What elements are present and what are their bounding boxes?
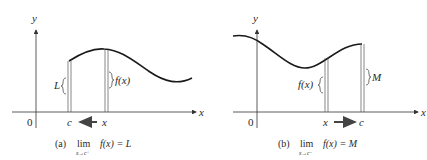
guide-at-x [325,57,328,112]
function-curve [69,49,192,82]
caption-expression: f(x) = M [323,138,358,150]
caption-lim: lim [77,138,91,149]
one-sided-limits-figure: x y 0 L f(x) c x (a) lim x→c⁺ f(x) = L [0,0,427,160]
point-c-label: c [67,116,72,128]
panel-b: x y 0 f(x) M x c (b) lim x→c⁻ f(x) = M [233,12,426,156]
origin-label: 0 [27,116,33,128]
point-x-label: x [322,116,328,128]
guide-at-c [68,61,71,112]
y-axis-label: y [252,12,258,24]
caption-subscript: x→c⁻ [298,150,312,156]
caption-expression: f(x) = L [100,138,132,150]
label-fx: f(x) [298,78,314,91]
caption-tag: (a) [55,138,66,150]
brace-fx [318,77,323,93]
point-x-label: x [101,116,107,128]
point-c-label: c [359,116,364,128]
y-axis-label: y [31,12,37,24]
origin-label: 0 [248,116,254,128]
brace-M [366,69,371,85]
x-axis-label: x [420,106,426,118]
panel-a: x y 0 L f(x) c x (a) lim x→c⁺ f(x) = L [12,12,204,156]
caption-a: (a) lim x→c⁺ f(x) = L [55,138,132,156]
label-M: M [371,71,382,83]
label-L: L [53,79,60,91]
function-curve [233,35,362,68]
x-axis-label: x [198,106,204,118]
caption-lim: lim [300,138,314,149]
brace-L [61,78,66,94]
guide-at-c [361,44,364,112]
brace-fx [109,72,114,88]
caption-b: (b) lim x→c⁻ f(x) = M [278,138,358,156]
caption-subscript: x→c⁺ [75,150,89,156]
label-fx: f(x) [115,74,131,87]
caption-tag: (b) [278,138,290,150]
guide-at-x [105,50,108,112]
